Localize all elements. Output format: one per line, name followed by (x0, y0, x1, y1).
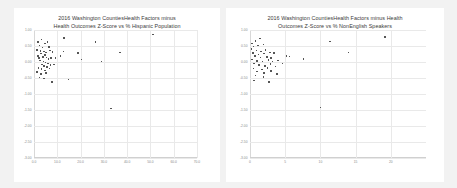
scatter-point (273, 52, 275, 54)
gridline-horizontal (34, 110, 197, 111)
gridline-vertical (174, 30, 175, 158)
x-axis-tick-label: 15 (354, 160, 358, 164)
scatter-point (44, 70, 46, 72)
gridline-horizontal (250, 158, 426, 159)
scatter-point (63, 51, 65, 53)
y-axis-tick-label: 0.00 (25, 60, 31, 64)
scatter-point (320, 107, 322, 109)
x-axis-tick-label: 60.0 (170, 160, 176, 164)
y-axis-tick-label: -3.00 (24, 156, 32, 160)
scatter-point (263, 76, 265, 78)
y-axis-tick-label: -0.50 (24, 76, 32, 80)
x-axis-tick-label: 10 (319, 160, 323, 164)
scatter-point (384, 36, 386, 38)
scatter-point (258, 54, 260, 56)
x-axis-tick-label: 40.0 (124, 160, 130, 164)
y-axis-tick-label: -1.00 (240, 92, 248, 96)
scatter-point (49, 50, 51, 52)
scatter-point (47, 41, 49, 43)
scatter-point (262, 61, 264, 63)
gridline-horizontal (34, 78, 197, 79)
gridline-horizontal (250, 78, 426, 79)
scatter-point (270, 57, 272, 59)
scatter-plot-nonenglish: 1.000.500.00-0.50-1.00-1.50-2.00-2.50-3.… (250, 30, 426, 158)
scatter-point (42, 56, 44, 58)
gridline-horizontal (34, 142, 197, 143)
scatter-point (269, 52, 271, 54)
scatter-point (68, 79, 70, 81)
gridline-horizontal (34, 94, 197, 95)
scatter-plot-hispanic: 1.000.500.00-0.50-1.00-1.50-2.00-2.50-3.… (34, 30, 197, 158)
scatter-point (119, 52, 121, 54)
scatter-point (277, 60, 279, 62)
x-axis-tick-label: 5 (284, 160, 286, 164)
y-axis-tick-label: -1.00 (24, 92, 32, 96)
x-axis-tick-label: 0.0 (32, 160, 37, 164)
scatter-point (43, 65, 45, 67)
chart-page: 2016 Washington CountiesHealth Factors m… (0, 0, 457, 188)
gridline-horizontal (250, 46, 426, 47)
scatter-point (77, 52, 79, 54)
scatter-point (60, 55, 62, 57)
scatter-point (45, 52, 47, 54)
y-axis-tick-label: -3.00 (240, 156, 248, 160)
chart-title-hispanic: 2016 Washington CountiesHealth Factors m… (14, 14, 220, 30)
gridline-vertical (391, 30, 392, 158)
scatter-point (253, 80, 255, 82)
scatter-point (39, 45, 41, 47)
scatter-point (257, 45, 259, 47)
scatter-point (48, 46, 50, 48)
scatter-point (36, 71, 38, 73)
x-axis-tick-label: 20 (389, 160, 393, 164)
scatter-point (40, 53, 42, 55)
scatter-point (36, 49, 38, 51)
scatter-point (254, 55, 256, 57)
y-axis-tick-label: 1.00 (25, 28, 31, 32)
y-axis-tick-label: -0.50 (240, 76, 248, 80)
scatter-point (42, 47, 44, 49)
scatter-point (37, 41, 39, 43)
scatter-point (52, 51, 54, 53)
y-axis-tick-label: -2.50 (240, 140, 248, 144)
scatter-point (253, 46, 255, 48)
gridline-vertical (104, 30, 105, 158)
x-axis-tick-label: 10.0 (54, 160, 60, 164)
scatter-point (256, 60, 258, 62)
chart-title-line2: Health Outcomes Z-Score vs % Hispanic Po… (24, 22, 210, 30)
gridline-vertical (285, 30, 286, 158)
scatter-point (255, 40, 257, 42)
scatter-point (282, 63, 284, 65)
scatter-point (41, 39, 43, 41)
scatter-point (44, 43, 46, 45)
gridline-horizontal (250, 126, 426, 127)
scatter-point (251, 48, 253, 50)
chart-title-nonenglish: 2016 Washington CountiesHealth Factors m… (226, 14, 444, 30)
chart-title-line2: Outcomes Z-Score vs % NonEnglish Speaker… (236, 22, 434, 30)
scatter-point (256, 71, 258, 73)
scatter-point (260, 57, 262, 59)
scatter-point (286, 55, 288, 57)
x-axis-tick-label: 0 (249, 160, 251, 164)
scatter-point (81, 59, 83, 61)
scatter-point (253, 68, 255, 70)
scatter-point (95, 41, 97, 43)
scatter-point (263, 53, 265, 55)
scatter-point (256, 50, 258, 52)
gridline-horizontal (34, 62, 197, 63)
scatter-point (39, 77, 41, 79)
scatter-point (39, 60, 41, 62)
y-axis-tick-label: -2.00 (24, 124, 32, 128)
scatter-point (101, 61, 103, 63)
gridline-vertical (356, 30, 357, 158)
gridline-horizontal (250, 142, 426, 143)
gridline-vertical (57, 30, 58, 158)
scatter-point (289, 56, 291, 58)
y-axis-tick-label: -1.50 (24, 108, 32, 112)
scatter-point (251, 59, 253, 61)
gridline-horizontal (34, 46, 197, 47)
scatter-point (48, 58, 50, 60)
gridline-horizontal (34, 158, 197, 159)
scatter-point (45, 72, 47, 74)
x-axis-tick-label: 30.0 (101, 160, 107, 164)
scatter-point (263, 44, 265, 46)
